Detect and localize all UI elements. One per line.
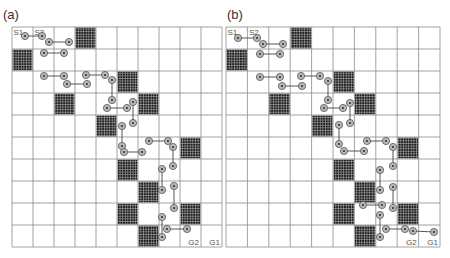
path-node-icon xyxy=(376,233,383,240)
path-node-icon xyxy=(389,183,396,190)
goal-label: G1 xyxy=(209,238,220,247)
path-node-icon xyxy=(376,186,383,193)
path-node-icon xyxy=(253,34,260,41)
path-node-icon xyxy=(183,225,190,232)
path-node-icon xyxy=(40,72,47,79)
path-node-icon xyxy=(82,71,89,78)
path-node-icon xyxy=(389,162,396,169)
path-node-icon xyxy=(382,137,389,144)
obstacle-cell xyxy=(269,94,289,115)
obstacle-cell xyxy=(139,182,159,203)
goal-label: G1 xyxy=(427,238,438,247)
path-node-icon xyxy=(118,122,125,129)
path-node-icon xyxy=(158,233,165,240)
path-node-icon xyxy=(278,82,285,89)
path-node-icon xyxy=(164,137,171,144)
path-node-icon xyxy=(256,73,263,80)
path-node-icon xyxy=(145,137,152,144)
path-node-icon xyxy=(158,165,165,172)
path-node-icon xyxy=(123,104,130,111)
path-node-icon xyxy=(430,228,437,235)
panel-a-grid: S1S2G2G1 xyxy=(12,27,222,247)
path-node-icon xyxy=(339,104,346,111)
path-node-icon xyxy=(63,80,70,87)
obstacle-cell xyxy=(55,94,75,115)
obstacle-cell xyxy=(76,28,96,49)
path-node-icon xyxy=(60,49,67,56)
path-node-icon xyxy=(170,182,177,189)
obstacle-cell xyxy=(139,226,159,247)
obstacle-cell xyxy=(118,204,138,225)
path-node-icon xyxy=(163,225,170,232)
path-node-icon xyxy=(363,137,370,144)
path-node-icon xyxy=(60,72,67,79)
obstacle-cell xyxy=(355,94,375,115)
path-node-icon xyxy=(158,213,165,220)
path-node-icon xyxy=(401,225,408,232)
path-node-icon xyxy=(120,148,127,155)
path-node-icon xyxy=(316,72,323,79)
goal-label: G2 xyxy=(406,238,417,247)
path-node-icon xyxy=(169,143,176,150)
obstacle-cell xyxy=(398,138,418,159)
path-node-icon xyxy=(360,147,367,154)
path-node-icon xyxy=(378,201,385,208)
obstacle-cell xyxy=(181,204,201,225)
path-node-icon xyxy=(382,225,389,232)
path-node-icon xyxy=(376,211,383,218)
path-node-icon xyxy=(259,40,266,47)
grid-path-diagram: S1S2G2G1 S1S2G2G1 xyxy=(0,0,450,258)
obstacle-cell xyxy=(227,50,247,71)
panel-b-grid: S1S2G2G1 xyxy=(226,27,440,247)
path-node-icon xyxy=(409,227,416,234)
obstacle-cell xyxy=(118,160,138,181)
obstacle-cell xyxy=(118,72,138,93)
obstacle-cell xyxy=(398,204,418,225)
path-node-icon xyxy=(170,204,177,211)
path-node-icon xyxy=(83,80,90,87)
path-node-icon xyxy=(324,96,331,103)
path-node-icon xyxy=(138,148,145,155)
path-node-icon xyxy=(340,147,347,154)
path-node-icon xyxy=(346,119,353,126)
path-node-icon xyxy=(129,119,136,126)
path-node-icon xyxy=(45,38,52,45)
path-node-icon xyxy=(21,32,28,39)
path-node-icon xyxy=(279,40,286,47)
path-node-icon xyxy=(276,73,283,80)
path-node-icon xyxy=(389,143,396,150)
obstacle-cell xyxy=(97,116,117,137)
path-node-icon xyxy=(320,104,327,111)
path-node-icon xyxy=(335,140,342,147)
path-node-icon xyxy=(359,201,366,208)
path-node-icon xyxy=(256,50,263,57)
path-node-icon xyxy=(103,104,110,111)
path-node-icon xyxy=(38,32,45,39)
obstacle-cell xyxy=(139,94,159,115)
goal-label: G2 xyxy=(188,238,199,247)
path-node-icon xyxy=(158,186,165,193)
path-node-icon xyxy=(40,49,47,56)
path-node-icon xyxy=(234,34,241,41)
path-node-icon xyxy=(108,96,115,103)
path-node-icon xyxy=(169,162,176,169)
path-node-icon xyxy=(297,72,304,79)
obstacle-cell xyxy=(355,226,375,247)
obstacle-cell xyxy=(334,160,354,181)
path-node-icon xyxy=(298,82,305,89)
obstacle-cell xyxy=(355,182,375,203)
obstacle-cell xyxy=(312,116,332,137)
path-node-icon xyxy=(101,71,108,78)
path-node-icon xyxy=(346,99,353,106)
path-node-icon xyxy=(376,166,383,173)
obstacle-cell xyxy=(181,138,201,159)
path-node-icon xyxy=(108,76,115,83)
obstacle-cell xyxy=(334,204,354,225)
path-node-icon xyxy=(276,50,283,57)
obstacle-cell xyxy=(334,72,354,93)
path-node-icon xyxy=(389,204,396,211)
obstacle-cell xyxy=(291,28,311,49)
path-node-icon xyxy=(129,98,136,105)
path-node-icon xyxy=(335,121,342,128)
path-node-icon xyxy=(324,77,331,84)
